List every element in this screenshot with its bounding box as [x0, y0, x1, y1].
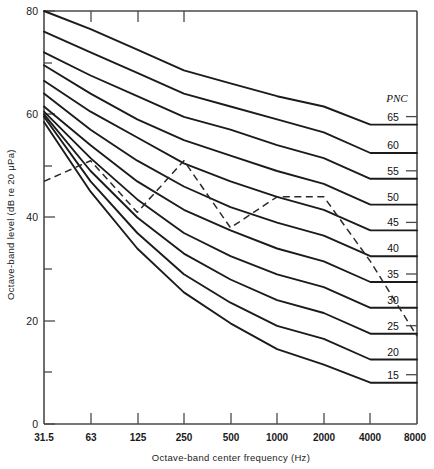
pnc-curve-label-35: 35 — [387, 268, 399, 280]
measured-spectrum-curve — [44, 161, 417, 337]
pnc-curve-label-45: 45 — [387, 216, 399, 228]
pnc-curve-label-40: 40 — [387, 242, 399, 254]
x-tick-label: 31.5 — [34, 432, 54, 443]
y-tick-label: 60 — [26, 108, 38, 120]
x-tick-label: 8000 — [404, 432, 427, 443]
pnc-curve-25 — [44, 114, 417, 333]
pnc-chart: 0 20 40 60 80 Octave-band level (dB re 2… — [0, 0, 434, 469]
y-tick-label: 80 — [26, 5, 38, 17]
pnc-curve-label-60: 60 — [387, 139, 399, 151]
y-tick-labels: 0 20 40 60 80 — [26, 5, 38, 430]
x-tick-label: 125 — [130, 432, 147, 443]
pnc-legend-header: PNC — [385, 92, 408, 104]
pnc-curve-label-15: 15 — [387, 369, 399, 381]
x-tick-label: 500 — [223, 432, 240, 443]
x-tick-labels: 31.5 63 125 250 500 1000 2000 4000 8000 — [34, 432, 426, 443]
x-tick-label: 2000 — [313, 432, 336, 443]
pnc-curve-65 — [44, 11, 417, 125]
y-axis-title: Octave-band level (dB re 20 μPa) — [5, 149, 16, 300]
pnc-curve-label-30: 30 — [387, 294, 399, 306]
pnc-curve-label-20: 20 — [387, 346, 399, 358]
x-tick-label: 4000 — [359, 432, 382, 443]
pnc-legend: PNC 6560555045403530252015 — [385, 92, 417, 381]
y-axis-ticks — [44, 11, 55, 424]
y-tick-label: 20 — [26, 315, 38, 327]
axes-frame — [44, 11, 417, 424]
pnc-curve-label-50: 50 — [387, 191, 399, 203]
x-axis-ticks — [91, 11, 370, 424]
x-tick-label: 250 — [176, 432, 193, 443]
curve-group — [44, 11, 417, 383]
chart-svg: 0 20 40 60 80 Octave-band level (dB re 2… — [0, 0, 434, 469]
pnc-curve-label-55: 55 — [387, 165, 399, 177]
pnc-curve-label-25: 25 — [387, 320, 399, 332]
pnc-curve-55 — [44, 52, 417, 179]
pnc-curve-label-65: 65 — [387, 111, 399, 123]
x-tick-label: 63 — [85, 432, 97, 443]
y-tick-label: 40 — [26, 211, 38, 223]
x-axis-title: Octave-band center frequency (Hz) — [152, 452, 310, 463]
y-tick-label: 0 — [32, 418, 38, 430]
x-tick-label: 1000 — [266, 432, 289, 443]
